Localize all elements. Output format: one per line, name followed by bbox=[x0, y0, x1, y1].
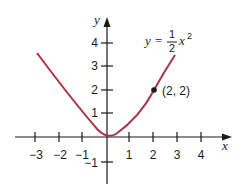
y-tick-label: 1 bbox=[91, 106, 98, 120]
x-tick-label: 4 bbox=[198, 148, 205, 162]
eq-exponent: 2 bbox=[187, 31, 192, 41]
equation-label: y = 1 2 x 2 bbox=[143, 28, 192, 54]
y-tick-label: 2 bbox=[91, 83, 98, 97]
eq-numerator: 1 bbox=[169, 28, 175, 40]
eq-lhs: y = bbox=[143, 33, 163, 48]
x-tick-label: 2 bbox=[150, 148, 157, 162]
x-tick-label: −2 bbox=[53, 148, 67, 162]
point-label: (2, 2) bbox=[162, 84, 190, 98]
x-tick-label: 1 bbox=[126, 148, 133, 162]
eq-var: x bbox=[178, 33, 185, 48]
point-marker bbox=[151, 87, 157, 93]
y-axis-arrow-icon bbox=[104, 17, 111, 27]
x-tick-label: 3 bbox=[174, 148, 181, 162]
x-axis-label: x bbox=[221, 138, 228, 153]
y-tick-label: 3 bbox=[91, 59, 98, 73]
x-tick-label: −3 bbox=[29, 148, 43, 162]
y-tick-label: 4 bbox=[91, 36, 98, 50]
eq-denominator: 2 bbox=[169, 42, 175, 54]
y-axis-label: y bbox=[92, 12, 100, 27]
chart-canvas: −3 −2 −1 1 2 3 4 4 3 2 1 −1 x y (2, 2) y… bbox=[0, 0, 243, 191]
y-tick-label: −1 bbox=[84, 156, 98, 170]
